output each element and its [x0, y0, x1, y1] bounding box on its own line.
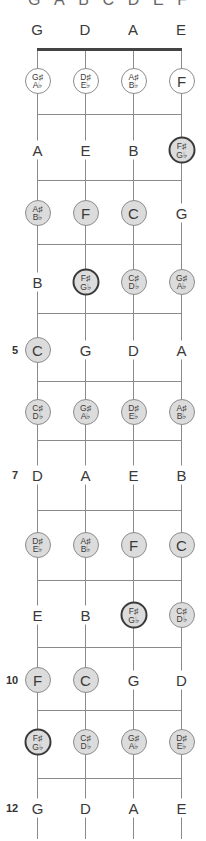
note-marker: C [25, 337, 51, 363]
top-letter: F [177, 0, 188, 9]
flat-name: D♭ [32, 412, 42, 421]
note-marker: D [29, 466, 46, 485]
note-marker: E [29, 606, 45, 625]
top-letter: D [128, 0, 141, 9]
note-marker: C [73, 667, 99, 693]
flat-name: B♭ [129, 81, 139, 90]
note-marker: G♯A♭ [73, 399, 99, 425]
flat-name: B♭ [81, 545, 91, 554]
flat-name: E♭ [129, 412, 139, 421]
note-marker: B [77, 606, 93, 625]
fret-line [37, 244, 182, 245]
top-letter: G [28, 0, 41, 9]
note-marker: A [173, 341, 189, 360]
fret-number: 12 [6, 802, 18, 814]
flat-name: G♭ [80, 282, 91, 291]
note-marker: D [77, 799, 94, 818]
note-marker: A♯B♭ [169, 399, 195, 425]
note-marker: C♯D♭ [73, 729, 99, 755]
note-marker: C [121, 200, 147, 226]
note-marker: D♯E♭ [25, 532, 51, 558]
note-marker: A [125, 799, 141, 818]
note-marker: D♯E♭ [169, 729, 195, 755]
fret-number: 5 [12, 344, 18, 356]
fret-line [37, 114, 182, 115]
note-marker: G♯A♭ [169, 269, 195, 295]
open-string-label: G [31, 21, 43, 38]
top-letter: C [103, 0, 116, 9]
note-marker: A♯B♭ [73, 532, 99, 558]
string-line-a [133, 49, 134, 839]
note-marker: C♯D♭ [121, 269, 147, 295]
fret-line [37, 440, 182, 441]
flat-name: D♭ [80, 742, 90, 751]
fret-line [37, 710, 182, 711]
flat-name: E♭ [177, 742, 187, 751]
note-marker: F♯G♭ [120, 602, 147, 629]
note-marker: D♯E♭ [121, 399, 147, 425]
open-string-label: A [128, 21, 138, 38]
note-marker: A [29, 141, 45, 160]
top-letter: E [153, 0, 165, 9]
note-marker: F♯G♭ [24, 729, 51, 756]
fret-line [37, 778, 182, 779]
note-marker: F [169, 68, 195, 94]
flat-name: E♭ [33, 545, 43, 554]
top-letter: A [54, 0, 66, 9]
note-marker: A♯B♭ [25, 200, 51, 226]
fret-number: 10 [6, 674, 18, 686]
top-note-letters: G A B C D E F [28, 0, 188, 9]
note-marker: F♯G♭ [168, 137, 195, 164]
note-marker: E [125, 466, 141, 485]
string-line-e [181, 49, 182, 839]
fret-line [37, 313, 182, 314]
fret-line [37, 580, 182, 581]
note-marker: A♯B♭ [121, 68, 147, 94]
fret-line [37, 180, 182, 181]
note-marker: D [173, 671, 190, 690]
flat-name: G♭ [128, 615, 139, 624]
nut [37, 48, 182, 51]
note-marker: G [29, 799, 47, 818]
note-marker: E [77, 141, 93, 160]
flat-name: A♭ [81, 412, 91, 421]
note-marker: F [73, 200, 99, 226]
note-marker: D [125, 341, 142, 360]
note-marker: B [173, 466, 189, 485]
top-letter: B [78, 0, 90, 9]
note-marker: G♯A♭ [121, 729, 147, 755]
string-line-g [37, 49, 38, 839]
flat-name: G♭ [176, 150, 187, 159]
flat-name: A♭ [33, 81, 43, 90]
fret-line [37, 381, 182, 382]
note-marker: B [125, 141, 141, 160]
note-marker: F♯G♭ [72, 269, 99, 296]
flat-name: D♭ [128, 282, 138, 291]
note-marker: C♯D♭ [25, 399, 51, 425]
flat-name: D♭ [176, 615, 186, 624]
string-line-d [85, 49, 86, 839]
fretboard-diagram: G A B C D E F GDAE571012G♯A♭D♯E♭A♯B♭FAEB… [0, 0, 206, 841]
open-string-label: E [176, 21, 186, 38]
note-marker: G [77, 341, 95, 360]
note-marker: G [173, 204, 191, 223]
flat-name: E♭ [81, 81, 91, 90]
flat-name: B♭ [33, 213, 43, 222]
flat-name: A♭ [177, 282, 187, 291]
note-marker: C♯D♭ [169, 602, 195, 628]
note-marker: G♯A♭ [25, 68, 51, 94]
fret-number: 7 [12, 469, 18, 481]
note-marker: F [121, 532, 147, 558]
flat-name: A♭ [129, 742, 139, 751]
fret-line [37, 647, 182, 648]
note-marker: F [25, 667, 51, 693]
note-marker: G [125, 671, 143, 690]
note-marker: D♯E♭ [73, 68, 99, 94]
open-string-label: D [80, 21, 91, 38]
flat-name: G♭ [32, 742, 43, 751]
fret-line [37, 510, 182, 511]
note-marker: E [173, 799, 189, 818]
note-marker: C [169, 532, 195, 558]
flat-name: B♭ [177, 412, 187, 421]
note-marker: B [29, 273, 45, 292]
